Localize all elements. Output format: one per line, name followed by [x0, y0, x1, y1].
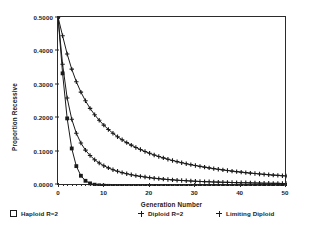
x-tick-mark — [194, 183, 195, 187]
data-point — [70, 117, 74, 121]
x-tick-minor — [90, 184, 91, 187]
data-point — [170, 178, 174, 182]
data-point — [125, 140, 129, 144]
data-point — [152, 176, 156, 180]
x-tick-minor — [267, 184, 268, 187]
y-tick-label: 0.4000 — [33, 47, 53, 54]
x-tick-minor — [153, 184, 154, 187]
x-tick-minor — [126, 184, 127, 187]
data-point — [207, 166, 211, 170]
x-tick-minor — [108, 184, 109, 187]
series-3 — [58, 17, 287, 178]
data-point — [234, 169, 238, 173]
data-point — [120, 170, 124, 174]
data-point — [111, 168, 115, 172]
data-point — [134, 173, 138, 177]
data-point — [179, 178, 183, 182]
x-tick-minor — [235, 184, 236, 187]
x-tick-minor — [85, 184, 86, 187]
data-point — [143, 175, 147, 179]
x-tick-minor — [94, 184, 95, 187]
x-tick-label: 10 — [100, 189, 107, 196]
data-point — [84, 179, 88, 183]
legend-item-1[interactable]: Haploid R=2 — [10, 210, 58, 217]
plot-area: 0.00000.10000.20000.30000.40000.5000 010… — [57, 16, 286, 185]
data-point — [189, 162, 193, 166]
x-tick-minor — [167, 184, 168, 187]
x-tick-minor — [262, 184, 263, 187]
y-tick-mark — [55, 83, 59, 84]
x-tick-label: 50 — [282, 189, 289, 196]
legend-item-label: Haploid R=2 — [21, 210, 58, 217]
data-point — [147, 175, 151, 179]
x-tick-minor — [181, 184, 182, 187]
x-tick-mark — [240, 183, 241, 187]
x-tick-minor — [72, 184, 73, 187]
x-tick-label: 0 — [56, 189, 59, 196]
y-tick-label: 0.1000 — [33, 147, 53, 154]
data-point — [266, 173, 270, 177]
data-point — [143, 149, 147, 153]
y-axis-title: Proportion Recessive — [11, 83, 18, 151]
x-tick-minor — [185, 184, 186, 187]
data-point — [276, 173, 280, 177]
data-point — [152, 153, 156, 157]
x-tick-minor — [190, 184, 191, 187]
data-point — [60, 34, 64, 38]
data-point — [106, 166, 110, 170]
x-tick-mark — [149, 183, 150, 187]
data-point — [70, 147, 74, 151]
data-point — [102, 163, 106, 167]
legend-item-3[interactable]: Limiting Diploid — [216, 210, 274, 217]
x-tick-minor — [67, 184, 68, 187]
data-point — [161, 177, 165, 181]
x-tick-minor — [217, 184, 218, 187]
data-point — [74, 79, 78, 83]
x-axis-title: Generation Number — [57, 201, 286, 208]
legend-item-2[interactable]: Diploid R=2 — [138, 210, 183, 217]
data-point — [170, 158, 174, 162]
data-point — [253, 171, 257, 175]
x-tick-minor — [76, 184, 77, 187]
x-tick-minor — [208, 184, 209, 187]
y-tick-mark — [55, 150, 59, 151]
x-tick-minor — [131, 184, 132, 187]
data-point — [74, 131, 78, 135]
data-point — [161, 156, 165, 160]
data-point — [212, 166, 216, 170]
square-marker-icon — [10, 210, 17, 217]
data-point — [74, 164, 78, 168]
data-point — [257, 172, 261, 176]
x-tick-label: 40 — [236, 189, 243, 196]
series-layer — [58, 17, 287, 186]
x-tick-minor — [81, 184, 82, 187]
x-tick-minor — [244, 184, 245, 187]
x-tick-label: 20 — [145, 189, 152, 196]
y-tick-mark — [55, 117, 59, 118]
data-point — [198, 164, 202, 168]
data-point — [134, 145, 138, 149]
data-point — [262, 172, 266, 176]
data-point — [193, 163, 197, 167]
data-point — [184, 179, 188, 183]
data-point — [248, 171, 252, 175]
y-tick-label: 0.5000 — [33, 14, 53, 21]
data-point — [138, 174, 142, 178]
x-tick-minor — [63, 184, 64, 187]
x-tick-minor — [249, 184, 250, 187]
plus-marker-icon — [216, 211, 222, 217]
y-tick-label: 0.2000 — [33, 114, 53, 121]
chart-canvas — [58, 17, 287, 186]
data-point — [285, 174, 287, 178]
x-tick-mark — [285, 183, 286, 187]
x-tick-label: 30 — [191, 189, 198, 196]
y-tick-mark — [55, 17, 59, 18]
legend-item-label: Limiting Diploid — [226, 210, 274, 217]
x-tick-minor — [99, 184, 100, 187]
x-tick-minor — [280, 184, 281, 187]
data-point — [166, 157, 170, 161]
x-tick-minor — [258, 184, 259, 187]
x-tick-minor — [199, 184, 200, 187]
data-point — [125, 172, 129, 176]
data-point — [157, 176, 161, 180]
